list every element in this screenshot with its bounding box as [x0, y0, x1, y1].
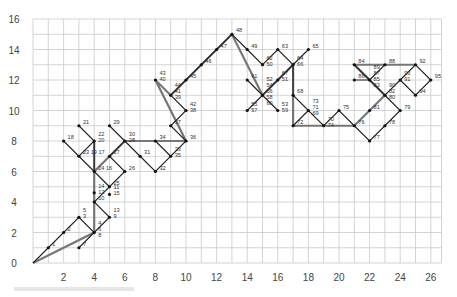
- caption-placeholder: [14, 287, 134, 291]
- node-label: 5557: [251, 101, 257, 113]
- node-label: 2: [68, 226, 71, 232]
- path-node: [353, 63, 356, 66]
- x-tick-label: 10: [180, 272, 192, 283]
- path-node: [93, 200, 96, 203]
- node-label: 49: [251, 43, 257, 49]
- path-node: [77, 124, 80, 127]
- path-node: [292, 94, 295, 97]
- path-node: [322, 124, 325, 127]
- x-tick-label: 24: [395, 272, 407, 283]
- node-label: 63: [282, 43, 288, 49]
- path-node: [123, 139, 126, 142]
- path-node: [139, 155, 142, 158]
- path-node: [93, 191, 96, 194]
- node-label: 25: [114, 180, 120, 186]
- path-node: [77, 155, 80, 158]
- node-label: 88: [389, 58, 395, 64]
- path-node: [383, 63, 386, 66]
- path-node: [169, 155, 172, 158]
- node-label: 92: [420, 58, 426, 64]
- path-node: [368, 109, 371, 112]
- node-label: 79: [404, 104, 410, 110]
- x-tick-label: 22: [364, 272, 376, 283]
- node-label: 3028: [129, 131, 135, 143]
- path-node: [123, 170, 126, 173]
- path-node: [414, 94, 417, 97]
- path-node: [77, 246, 80, 249]
- node-label: 78: [389, 119, 395, 125]
- y-tick-label: 8: [11, 136, 17, 147]
- node-label: 7: [83, 241, 86, 247]
- node-label: 4238: [190, 101, 196, 113]
- path-node: [154, 139, 157, 142]
- x-tick-label: 12: [211, 272, 223, 283]
- path-node: [169, 124, 172, 127]
- x-tick-label: 16: [272, 272, 284, 283]
- node-label: 2220: [98, 131, 104, 143]
- path-node: [108, 193, 111, 196]
- node-label: 4340: [159, 70, 165, 82]
- x-tick-label: 18: [303, 272, 315, 283]
- path-node: [276, 48, 279, 51]
- path-node: [154, 170, 157, 173]
- node-label: 908280: [389, 82, 395, 100]
- node-label: 31: [144, 149, 150, 155]
- y-tick-label: 16: [8, 14, 20, 25]
- node-label: 72: [297, 119, 303, 125]
- x-tick-label: 8: [153, 272, 159, 283]
- path-node: [383, 124, 386, 127]
- x-tick-label: 2: [61, 272, 67, 283]
- node-label: 24 16: [98, 165, 112, 171]
- path-node: [184, 139, 187, 142]
- path-node: [399, 78, 402, 81]
- node-label: 468: [98, 220, 101, 238]
- node-label: 68: [297, 88, 303, 94]
- path-node: [108, 216, 111, 219]
- path-diagram: 2468101214161820222426024681012141612534…: [0, 0, 457, 297]
- node-label: 21: [83, 119, 89, 125]
- node-label: 3335: [175, 146, 181, 158]
- path-node: [108, 185, 111, 188]
- node-label: 1412: [98, 183, 104, 195]
- path-node: [292, 63, 295, 66]
- path-node: [261, 94, 264, 97]
- node-label: 94: [420, 88, 426, 94]
- path-node: [261, 63, 264, 66]
- node-label: 53: [83, 207, 86, 219]
- y-tick-label: 6: [11, 167, 17, 178]
- path-node: [246, 48, 249, 51]
- path-node: [154, 78, 157, 81]
- path-node: [307, 48, 310, 51]
- path-node: [276, 78, 279, 81]
- path-node: [246, 78, 249, 81]
- node-label: 9391: [404, 70, 410, 82]
- node-label: 5359: [282, 101, 288, 113]
- path-node: [62, 139, 65, 142]
- path-node: [62, 231, 65, 234]
- path-node: [353, 78, 356, 81]
- node-label: 737169: [312, 98, 318, 116]
- y-tick-label: 14: [8, 45, 20, 56]
- node-label: 5254565860: [267, 76, 273, 106]
- node-label: 47: [221, 43, 227, 49]
- node-label: 84: [358, 58, 364, 64]
- path-node: [200, 63, 203, 66]
- node-label: 10: [98, 195, 104, 201]
- path-node: [368, 78, 371, 81]
- x-tick-label: 4: [91, 272, 97, 283]
- y-tick-label: 12: [8, 75, 20, 86]
- path-node: [184, 78, 187, 81]
- path-node: [246, 109, 249, 112]
- node-label: 444139: [175, 82, 181, 100]
- node-label: 37: [175, 119, 181, 125]
- path-node: [276, 109, 279, 112]
- y-tick-label: 4: [11, 197, 17, 208]
- node-label: 34: [159, 134, 165, 140]
- node-label: 6250: [267, 55, 273, 67]
- path-node: [215, 48, 218, 51]
- node-label: 26: [129, 165, 135, 171]
- path-node: [108, 124, 111, 127]
- y-tick-label: 2: [11, 228, 17, 239]
- path-node: [93, 231, 96, 234]
- node-label: 27: [114, 149, 120, 155]
